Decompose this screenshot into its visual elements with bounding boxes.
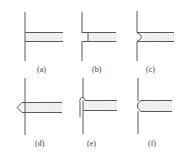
panel-b: (b) [82, 12, 116, 74]
panel-label-e: (e) [87, 139, 96, 148]
panel-c: (c) [137, 11, 174, 74]
panel-label-b: (b) [92, 65, 102, 74]
panel-label-a: (a) [37, 65, 46, 74]
panel-e: (e) [80, 78, 117, 148]
panel-f: (f) [137, 78, 172, 148]
panel-label-d: (d) [35, 139, 45, 148]
joint-diagram: (a) (b) (c) (d) (e) [0, 0, 183, 159]
panel-label-f: (f) [148, 139, 156, 148]
panel-label-c: (c) [146, 65, 155, 74]
panel-d: (d) [17, 78, 62, 148]
panel-a: (a) [25, 12, 63, 74]
